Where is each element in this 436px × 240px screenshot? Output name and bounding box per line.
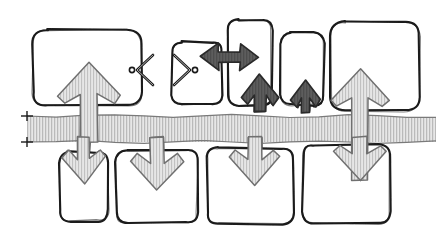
diagram-canvas: Hand-drawn service bus architecture sket… xyxy=(0,0,436,240)
hand-drawn-architecture-diagram xyxy=(0,0,436,240)
